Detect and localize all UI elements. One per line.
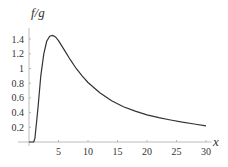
plot-area: 510152025300.20.40.60.811.21.4 f/g x [0, 0, 228, 167]
x-axis-label: x [212, 134, 219, 149]
y-tick-label: 0.4 [12, 107, 25, 118]
y-axis-label: f/g [31, 5, 45, 20]
x-tick-label: 25 [172, 146, 182, 157]
line-chart: 510152025300.20.40.60.811.21.4 f/g x [0, 0, 228, 167]
data-series-line [29, 35, 206, 142]
x-tick-label: 30 [201, 146, 211, 157]
x-tick-label: 5 [56, 146, 61, 157]
x-tick-label: 10 [83, 146, 93, 157]
tick-labels: 510152025300.20.40.60.811.21.4 [12, 34, 212, 157]
y-tick-label: 0.2 [12, 122, 25, 133]
y-tick-label: 0.8 [12, 78, 25, 89]
y-tick-label: 1 [19, 63, 24, 74]
x-tick-label: 15 [113, 146, 123, 157]
y-tick-label: 1.2 [12, 48, 25, 59]
y-tick-label: 1.4 [12, 34, 25, 45]
y-tick-label: 0.6 [12, 92, 25, 103]
x-tick-label: 20 [142, 146, 152, 157]
axes [18, 28, 212, 146]
